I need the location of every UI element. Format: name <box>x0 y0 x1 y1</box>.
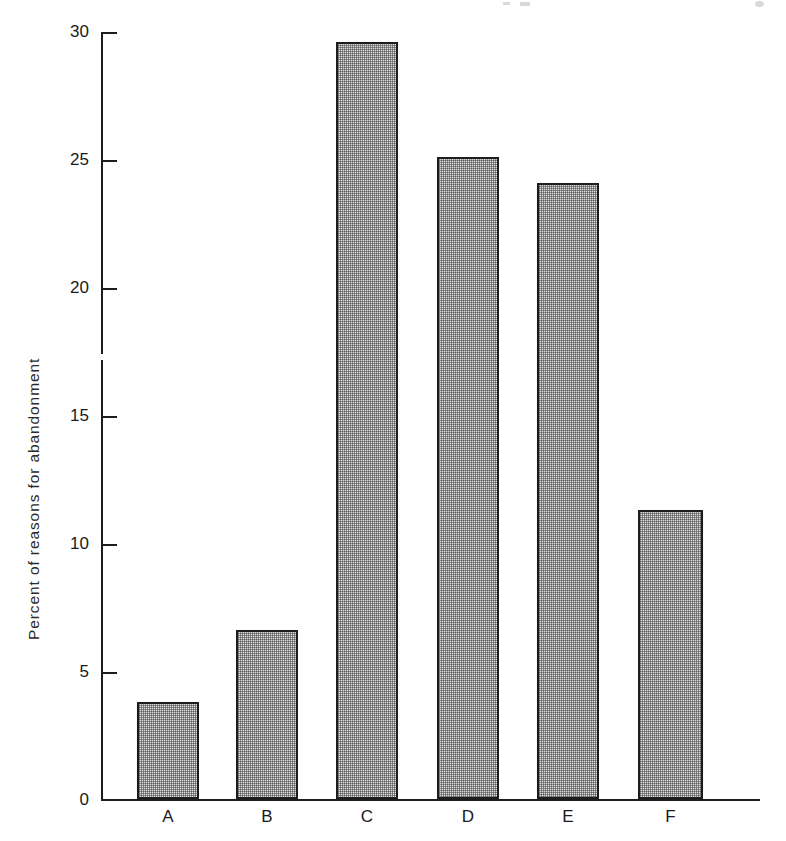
bar-E <box>537 183 599 799</box>
bar-F <box>638 510 703 799</box>
bar-C <box>336 42 398 799</box>
x-category-label-A: A <box>137 808 199 825</box>
plot-area: 30 25 20 15 10 5 0 <box>0 0 786 841</box>
y-tick-label-20: 20 <box>47 279 89 296</box>
x-category-label-E: E <box>537 808 599 825</box>
bar-A <box>137 702 199 799</box>
y-tick-label-5: 5 <box>47 663 89 680</box>
bar-B <box>236 630 298 799</box>
x-category-label-C: C <box>336 808 398 825</box>
x-axis-line <box>101 799 760 801</box>
x-category-label-F: F <box>638 808 703 825</box>
y-tick-label-15: 15 <box>47 407 89 424</box>
x-category-label-B: B <box>236 808 298 825</box>
y-tick-label-25: 25 <box>47 151 89 168</box>
y-tick-label-30: 30 <box>47 23 89 40</box>
y-axis-line-lower <box>101 360 103 801</box>
y-axis-line-upper <box>101 32 103 354</box>
bar-chart-figure: Percent of reasons for abandonment 30 25… <box>0 0 786 841</box>
y-tick-label-0: 0 <box>47 791 89 808</box>
bar-D <box>437 157 499 799</box>
x-category-label-D: D <box>437 808 499 825</box>
y-tick-label-10: 10 <box>47 535 89 552</box>
